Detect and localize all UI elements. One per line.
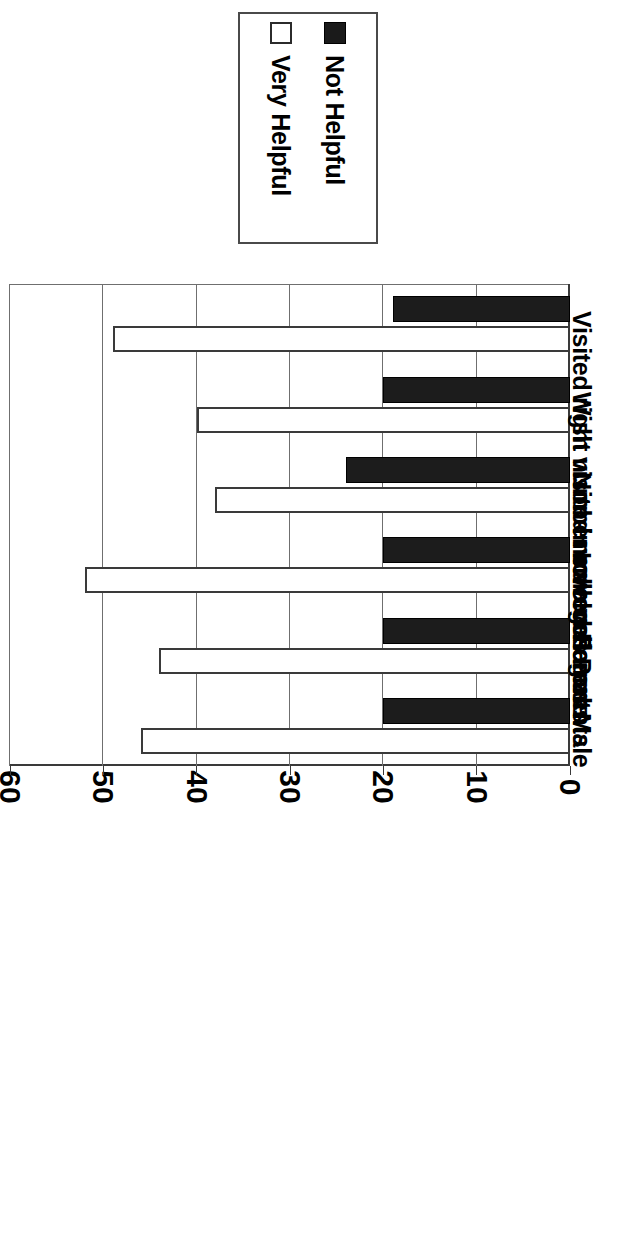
bar-0-4 — [383, 618, 570, 644]
bar-1-3 — [85, 567, 570, 593]
gridline-50 — [102, 284, 103, 766]
bar-0-2 — [346, 457, 570, 483]
bar-1-5 — [141, 728, 570, 754]
tick-mark-10 — [476, 766, 477, 775]
gridline-30 — [289, 284, 290, 766]
gridline-40 — [196, 284, 197, 766]
legend-label: Very Helpful — [269, 55, 294, 196]
bar-1-0 — [113, 326, 570, 352]
gridline-60 — [9, 284, 10, 766]
bar-1-2 — [215, 487, 570, 513]
bar-0-1 — [383, 377, 570, 403]
bar-1-4 — [159, 648, 570, 674]
legend-label: Not Helpful — [323, 55, 348, 185]
tick-mark-30 — [290, 766, 291, 775]
tick-label-60: 60 — [0, 757, 25, 817]
filled-square-icon — [324, 22, 346, 44]
tick-mark-60 — [10, 766, 11, 775]
bar-0-3 — [383, 537, 570, 563]
bar-0-0 — [393, 296, 570, 322]
gridline-10 — [476, 284, 477, 766]
legend-item: Not Helpful — [315, 22, 355, 244]
category-label-5: Male — [569, 713, 594, 767]
bar-chart-plot-area — [10, 284, 570, 766]
legend-item: Very Helpful — [261, 22, 301, 244]
bar-1-1 — [197, 407, 570, 433]
tick-mark-20 — [383, 766, 384, 775]
tick-mark-40 — [196, 766, 197, 775]
plot-top-border — [10, 284, 570, 285]
gridline-20 — [382, 284, 383, 766]
chart-legend: Not Helpful Very Helpful — [238, 12, 378, 244]
tick-mark-50 — [103, 766, 104, 775]
bar-0-5 — [383, 698, 570, 724]
category-label-4: Female — [569, 633, 594, 717]
open-square-icon — [270, 22, 292, 44]
